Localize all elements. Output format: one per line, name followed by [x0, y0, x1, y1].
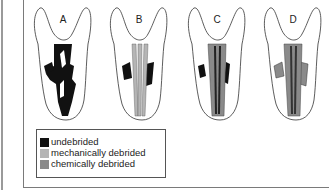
panel-label-d: D — [262, 14, 324, 25]
legend-item-undebrided: undebrided — [40, 137, 99, 147]
tooth-diagram-d: D — [262, 4, 324, 122]
legend-label: undebrided — [51, 137, 99, 147]
legend-swatch-mechanically-debrided — [40, 149, 49, 158]
legend-label: mechanically debrided — [51, 148, 146, 158]
legend-label: chemically debrided — [51, 159, 135, 169]
legend: undebrided mechanically debrided chemica… — [36, 129, 166, 178]
legend-swatch-undebrided — [40, 138, 49, 147]
panel-label-a: A — [32, 14, 94, 25]
legend-item-mechanically-debrided: mechanically debrided — [40, 148, 146, 158]
panel-label-b: B — [108, 14, 170, 25]
tooth-diagram-c: C — [186, 4, 248, 122]
tooth-diagram-a: A — [32, 4, 94, 122]
legend-swatch-chemically-debrided — [40, 160, 49, 169]
page-edge-strip — [1, 0, 3, 190]
tooth-diagram-b: B — [108, 4, 170, 122]
panel-label-c: C — [186, 14, 248, 25]
legend-item-chemically-debrided: chemically debrided — [40, 159, 135, 169]
